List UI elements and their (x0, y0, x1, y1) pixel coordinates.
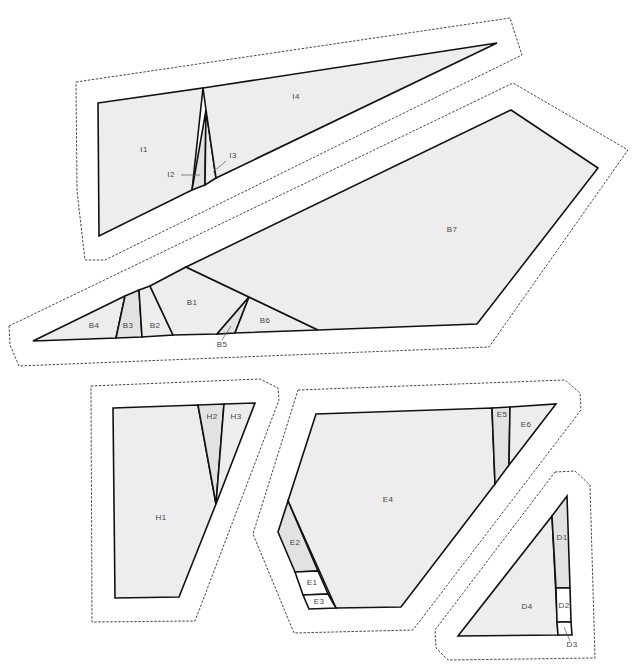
piece-label-i3: I3 (229, 151, 237, 160)
piece-b4 (33, 296, 125, 341)
piece-label-e5: E5 (497, 410, 508, 419)
piece-label-b6: B6 (260, 316, 271, 325)
piece-label-e6: E6 (521, 420, 532, 429)
piece-label-e2: E2 (290, 538, 301, 547)
piece-label-b1: B1 (187, 298, 198, 307)
piece-label-b2: B2 (150, 321, 161, 330)
piece-label-d3: D3 (567, 640, 578, 649)
piece-label-h3: H3 (231, 412, 242, 421)
piece-label-b7: B7 (447, 225, 458, 234)
piece-label-i4: I4 (292, 92, 300, 101)
piece-label-i2: I2 (167, 170, 175, 179)
pattern-diagram: I1I2I3I4B4B3B2B1B5B6B7H1H2H3E4E2E1E3E5E6… (0, 0, 642, 672)
piece-label-b4: B4 (89, 321, 100, 330)
piece-label-h1: H1 (156, 513, 167, 522)
piece-h1 (113, 405, 216, 598)
piece-label-d2: D2 (559, 601, 570, 610)
piece-label-h2: H2 (207, 412, 218, 421)
piece-i1 (98, 88, 203, 236)
pattern-pieces (33, 43, 598, 636)
piece-label-b3: B3 (123, 321, 134, 330)
piece-e6 (509, 404, 556, 465)
piece-label-e1: E1 (307, 578, 318, 587)
piece-label-i1: I1 (140, 145, 148, 154)
piece-label-b5: B5 (217, 340, 228, 349)
piece-label-e4: E4 (383, 495, 394, 504)
piece-label-e3: E3 (314, 597, 325, 606)
piece-label-d1: D1 (557, 533, 568, 542)
piece-label-d4: D4 (522, 602, 533, 611)
